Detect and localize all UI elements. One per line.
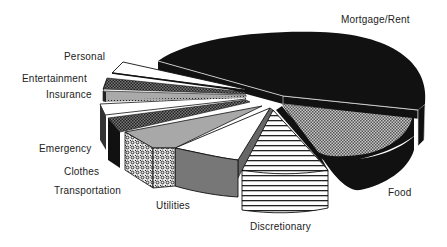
label-emergency: Emergency bbox=[39, 143, 91, 154]
label-transportation: Transportation bbox=[54, 185, 121, 196]
label-entertainment: Entertainment bbox=[22, 73, 87, 84]
label-insurance: Insurance bbox=[46, 89, 92, 100]
label-food: Food bbox=[388, 187, 412, 198]
label-personal: Personal bbox=[64, 51, 105, 62]
label-discretionary: Discretionary bbox=[250, 221, 311, 232]
label-clothes: Clothes bbox=[64, 166, 99, 177]
pie-chart bbox=[0, 0, 447, 247]
label-mortgage-rent: Mortgage/Rent bbox=[341, 14, 410, 25]
label-utilities: Utilities bbox=[156, 200, 190, 211]
